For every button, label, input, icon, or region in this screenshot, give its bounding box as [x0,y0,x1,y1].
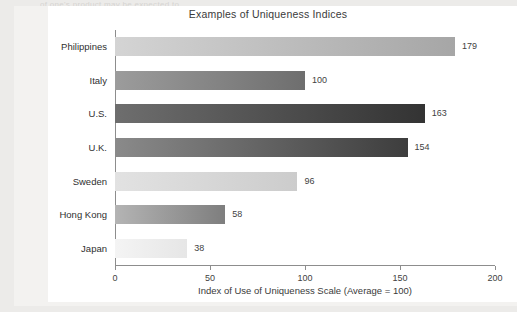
bar[interactable] [115,172,297,191]
bar[interactable] [115,205,225,224]
bar-row[interactable]: 58 [115,205,495,224]
category-label: Italy [3,75,107,86]
category-axis-labels: PhilippinesItalyU.S.U.K.SwedenHong KongJ… [0,30,107,265]
category-label: Japan [3,243,107,254]
chart-title: Examples of Uniqueness Indices [48,8,488,20]
bar-value-label: 179 [462,41,477,51]
x-tick-label: 150 [392,273,407,283]
bar[interactable] [115,138,408,157]
x-tick-mark [495,266,496,270]
category-label: U.K. [3,142,107,153]
category-label: Hong Kong [3,209,107,220]
category-label: U.S. [3,108,107,119]
bar[interactable] [115,71,305,90]
bar-value-label: 100 [312,75,327,85]
x-tick-label: 0 [112,273,117,283]
x-tick-mark [115,266,116,270]
bar-value-label: 58 [232,209,242,219]
plot-area: 050100150200179100163154965838 [115,30,495,265]
bar-value-label: 38 [194,243,204,253]
bar-row[interactable]: 100 [115,71,495,90]
bar-row[interactable]: 154 [115,138,495,157]
bar-value-label: 96 [304,176,314,186]
category-label: Sweden [3,176,107,187]
bar-value-label: 154 [415,142,430,152]
bar[interactable] [115,37,455,56]
x-tick-mark [210,266,211,270]
x-axis-title: Index of Use of Uniqueness Scale (Averag… [115,285,495,296]
category-label: Philippines [3,41,107,52]
x-tick-label: 50 [205,273,215,283]
x-tick-mark [400,266,401,270]
bar-row[interactable]: 96 [115,172,495,191]
x-tick-mark [305,266,306,270]
bar[interactable] [115,239,187,258]
bar-value-label: 163 [432,108,447,118]
bar-row[interactable]: 179 [115,37,495,56]
bar-row[interactable]: 163 [115,104,495,123]
x-tick-label: 100 [297,273,312,283]
x-tick-label: 200 [487,273,502,283]
bar-row[interactable]: 38 [115,239,495,258]
bar[interactable] [115,104,425,123]
